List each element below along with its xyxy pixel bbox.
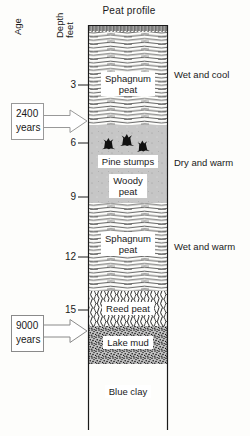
depth-tick-6: 6	[54, 137, 76, 148]
callout-2400-years-text: 2400 years	[16, 107, 40, 134]
label-pine-stumps: Pine stumps	[89, 155, 167, 168]
label-blue-clay: Blue clay	[89, 385, 167, 398]
label-sphagnum-peat-upper: Sphagnum peat	[89, 72, 167, 96]
climate-note-wet-and-cool: Wet and cool	[174, 69, 229, 80]
figure-title: Peat profile	[84, 5, 174, 16]
strat-column-drawing	[0, 0, 250, 436]
callout-arrow	[44, 110, 88, 133]
depth-axis-label-unit: feet	[65, 2, 75, 38]
depth-axis-label: Depth feet	[55, 2, 75, 38]
climate-note-dry-and-warm: Dry and warm	[174, 157, 233, 168]
depth-tick-3: 3	[54, 79, 76, 90]
label-sphagnum-peat-lower: Sphagnum peat	[89, 232, 167, 256]
age-axis-label: Age	[13, 3, 23, 35]
depth-tick-15: 15	[54, 304, 76, 315]
label-woody-peat: Woody peat	[89, 174, 167, 198]
climate-note-wet-and-warm: Wet and warm	[174, 241, 235, 252]
label-reed-peat: Reed peat	[89, 302, 167, 315]
depth-tick-9: 9	[54, 191, 76, 202]
callout-9000-years-text: 9000 years	[16, 319, 40, 346]
label-lake-mud: Lake mud	[89, 336, 167, 349]
peat-profile-figure: Peat profile Age Depth feet 3 6 9 12 15 …	[0, 0, 250, 436]
callout-arrow	[44, 320, 88, 343]
depth-tick-12: 12	[54, 251, 76, 262]
